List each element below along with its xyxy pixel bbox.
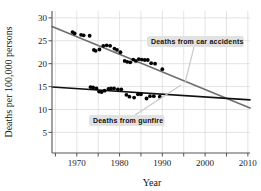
annotation-label-gunfire: Deaths from gunfire <box>93 117 163 125</box>
y-tick-label: 10 <box>38 105 48 115</box>
y-tick-label: 5 <box>43 128 48 138</box>
y-axis-title: Deaths per 100,000 persons <box>3 26 14 137</box>
annotation-label-car-accidents: Deaths from car accidents <box>151 38 244 45</box>
x-tick-label: 2000 <box>196 158 215 168</box>
x-tick-label: 2010 <box>239 158 258 168</box>
y-axis-ticks: 51015202530 <box>38 13 52 138</box>
y-tick-label: 30 <box>38 13 48 23</box>
y-tick-label: 20 <box>38 59 48 69</box>
x-axis-title: Year <box>143 177 162 188</box>
chart-figure: 51015202530 19701980199020002010 Deaths … <box>0 0 261 191</box>
plot-background <box>52 11 250 153</box>
x-tick-label: 1970 <box>68 158 87 168</box>
x-axis-ticks: 19701980199020002010 <box>55 153 257 168</box>
y-tick-label: 15 <box>38 82 48 92</box>
x-tick-label: 1990 <box>153 158 172 168</box>
x-tick-label: 1980 <box>111 158 130 168</box>
scatter-plot-svg: 51015202530 19701980199020002010 Deaths … <box>0 0 261 191</box>
y-tick-label: 25 <box>38 36 48 46</box>
